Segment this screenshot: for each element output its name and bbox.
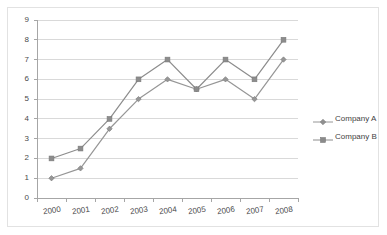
y-axis-tick-label: 8	[17, 36, 29, 44]
x-axis-ticks	[37, 198, 298, 202]
y-axis-tick-label: 0	[17, 194, 29, 202]
chart-legend: Company A Company B	[313, 112, 387, 148]
y-axis-tick-label: 4	[17, 115, 29, 123]
y-axis-tick-label: 9	[17, 16, 29, 24]
legend-item-company-b[interactable]: Company B	[313, 130, 387, 142]
legend-item-company-a[interactable]: Company A	[313, 112, 387, 124]
y-axis-tick-label: 3	[17, 135, 29, 143]
y-axis-tick-label: 1	[17, 174, 29, 182]
legend-marker-diamond-icon	[313, 113, 333, 123]
y-axis-tick-label: 7	[17, 56, 29, 64]
chart-container: 0123456789 20002001200220032004200520062…	[7, 7, 379, 227]
legend-marker-square-icon	[313, 131, 333, 141]
legend-label-company-b: Company B	[335, 132, 377, 141]
series-markers	[49, 37, 286, 181]
legend-label-company-a: Company A	[335, 114, 376, 123]
y-axis-tick-label: 5	[17, 95, 29, 103]
y-axis-tick-label: 2	[17, 154, 29, 162]
y-axis-tick-label: 6	[17, 75, 29, 83]
